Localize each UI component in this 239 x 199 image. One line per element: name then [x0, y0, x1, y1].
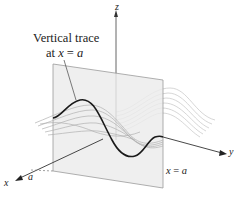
plane-label-eq: =: [171, 165, 182, 176]
y-axis-arrow-icon: [219, 150, 227, 156]
annotation-title: Vertical trace: [33, 32, 99, 45]
surface-diagram: [0, 0, 239, 199]
x-axis-label: x: [4, 178, 8, 188]
vertical-trace-figure: Vertical trace at x = a z x y a x = a: [0, 0, 239, 199]
x-tick-a-label: a: [28, 172, 33, 182]
plane-label: x = a: [166, 166, 187, 177]
annotation-subtitle: at x = a: [46, 47, 83, 60]
annotation-sub-prefix: at: [46, 46, 58, 60]
y-axis-label: y: [229, 147, 233, 157]
y-axis: [163, 137, 222, 153]
annotation-sub-eq: =: [64, 46, 77, 60]
z-axis-label: z: [115, 2, 119, 12]
annotation-sub-val: a: [77, 46, 83, 60]
plane-label-val: a: [182, 165, 187, 176]
x-axis-arrow-icon: [15, 175, 23, 181]
